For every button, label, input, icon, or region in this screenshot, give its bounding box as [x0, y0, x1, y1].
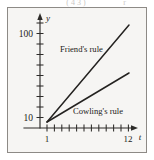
- x-tick-label-12: 12: [124, 134, 133, 144]
- line-chart: 100 10 1 12 y t Friend's rule Cowling's …: [7, 7, 147, 153]
- x-axis-arrow-icon: [131, 125, 138, 130]
- series-label-cowlings-rule: Cowling's rule: [73, 106, 123, 116]
- y-axis-arrow-icon: [37, 13, 42, 20]
- y-tick-label-10: 10: [24, 113, 34, 123]
- x-axis-label: t: [139, 132, 142, 142]
- y-tick-label-100: 100: [19, 29, 34, 39]
- top-edge-artifact: (43) r: [0, 0, 154, 7]
- top-artifact-right-text: r: [123, 0, 128, 7]
- top-artifact-left-text: (43): [66, 0, 87, 7]
- figure-root: (43) r: [0, 0, 154, 160]
- y-axis-label: y: [45, 13, 50, 23]
- x-tick-label-1: 1: [45, 134, 50, 144]
- series-label-friends-rule: Friend's rule: [60, 44, 103, 54]
